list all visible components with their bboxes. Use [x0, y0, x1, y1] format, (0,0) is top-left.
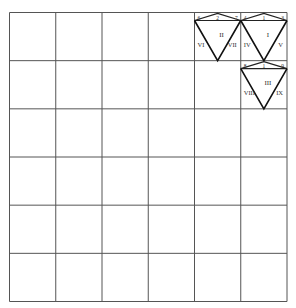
vertex-label: 8 — [244, 63, 247, 69]
triangle-II: 627IIVIVII — [195, 14, 241, 61]
vertex-label: 6 — [198, 15, 201, 21]
triangle-III: 819IIIVIIIIX — [241, 62, 287, 109]
triangle-I: 413IIVV — [241, 14, 287, 61]
triangle-numeral: I — [267, 31, 270, 39]
folding-grid-diagram: 627IIVIVII413IIVV819IIIVIIIIX — [0, 0, 296, 308]
side-label-left: IV — [244, 41, 251, 48]
triangle-numeral: II — [219, 31, 224, 39]
vertex-label: 9 — [281, 63, 284, 69]
side-label-left: VI — [198, 41, 205, 48]
grid-lines — [10, 13, 288, 302]
side-label-right: IX — [276, 89, 283, 96]
side-label-right: VII — [228, 41, 237, 48]
vertex-label: 4 — [244, 15, 247, 21]
vertex-label: 1 — [263, 15, 266, 21]
vertex-label: 7 — [235, 15, 238, 21]
vertex-label: 3 — [281, 15, 284, 21]
vertex-label: 2 — [216, 15, 219, 21]
vertex-label: 1 — [263, 63, 266, 69]
side-label-right: V — [278, 41, 283, 48]
side-label-left: VIII — [244, 89, 255, 96]
triangle-numeral: III — [264, 79, 272, 87]
